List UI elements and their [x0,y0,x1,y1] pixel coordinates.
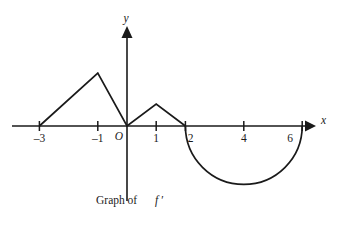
piecewise-linear-segment [39,73,185,126]
tick-label-1: 1 [153,132,159,144]
x-axis-label: x [320,114,327,126]
x-axis-arrowhead [305,121,316,132]
tick-label-2: 2 [188,132,194,144]
y-axis-label: y [122,12,129,25]
caption-function-label: f ′ [155,194,163,207]
tick-label-6: 6 [287,132,293,144]
origin-label: O [115,130,124,142]
tick-label-4: 4 [241,132,247,144]
y-axis [122,26,133,201]
tick-label-minus-1: –1 [91,132,104,144]
figure-caption: Graph of f ′ [96,194,163,207]
caption-text: Graph of [96,194,137,207]
tick-label-minus-3: –3 [33,132,46,144]
x-axis [12,121,316,132]
graph-figure: x y O –3 –1 1 2 4 6 Graph of f ′ [0,0,340,226]
graph-svg: x y O –3 –1 1 2 4 6 Graph of f ′ [0,0,340,226]
y-axis-arrowhead [122,26,133,38]
